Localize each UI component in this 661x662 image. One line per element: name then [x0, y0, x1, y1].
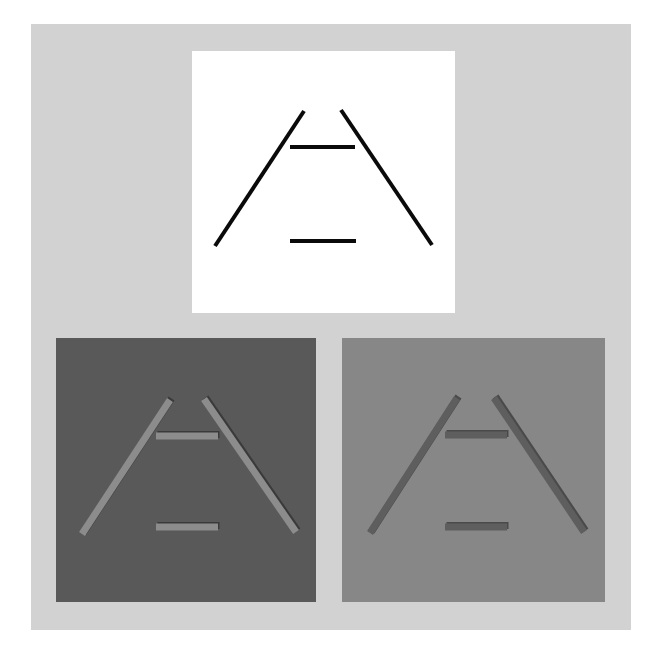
panel-black-on-white: black lines on white [192, 51, 455, 313]
right-converging-line [494, 398, 584, 532]
panel-dark-on-gray: dark bars on medium gray [342, 338, 605, 602]
left-converging-line [215, 111, 304, 246]
left-converging-line [370, 398, 457, 533]
right-converging-line [341, 110, 432, 245]
left-converging-line [82, 400, 170, 534]
panel-light-on-dark: light bars on dark gray [56, 338, 316, 602]
ponzo-illusion-drawing [192, 51, 455, 313]
ponzo-illusion-drawing [56, 338, 316, 602]
right-converging-line [204, 399, 296, 532]
ponzo-illusion-drawing [342, 338, 605, 602]
